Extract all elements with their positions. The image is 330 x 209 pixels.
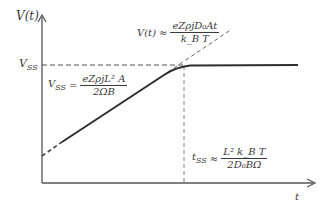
vss-equation: VSS = eZρjL² A 2ΩB [48, 74, 127, 97]
vss-tick-label: VSS [19, 58, 38, 72]
linear-equation: V(t) ≈ eZρjD₀At k_B T [137, 21, 219, 44]
x-axis-label: t [295, 192, 299, 202]
linear-start-dashed [42, 142, 62, 156]
y-axis-label: V(t) [16, 10, 39, 22]
tss-equation: tSS ≈ L² k_B T 2D₀BΩ [192, 147, 267, 170]
